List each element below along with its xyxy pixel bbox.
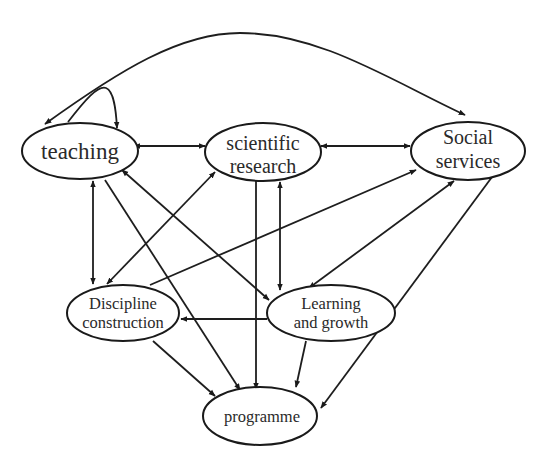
node-label-line1: Learning	[301, 294, 361, 313]
node-scientific-research: scientific research	[205, 123, 321, 181]
node-discipline-construction: Discipline construction	[67, 285, 179, 341]
edge-learning-social	[309, 181, 454, 288]
node-label: programme	[224, 407, 300, 426]
node-label-line2: research	[230, 155, 297, 177]
edges	[45, 33, 492, 408]
edge-teaching-social-services-arc	[45, 33, 465, 124]
edge-learning-programme	[296, 341, 306, 387]
node-label-line2: and growth	[294, 313, 369, 332]
node-programme: programme	[203, 387, 317, 445]
node-learning-and-growth: Learning and growth	[267, 285, 395, 341]
edge-teaching-learning	[122, 170, 269, 300]
node-label-line1: scientific	[226, 132, 299, 154]
edge-discipline-programme	[153, 341, 215, 396]
node-label-line1: Social	[443, 126, 493, 148]
relationship-diagram: teaching scientific research Social serv…	[0, 0, 545, 465]
node-teaching: teaching	[22, 123, 138, 179]
node-social-services: Social services	[411, 122, 525, 180]
node-label: teaching	[41, 139, 119, 164]
node-label-line2: services	[436, 150, 501, 172]
edge-teaching-self-loop	[68, 88, 117, 128]
edge-discipline-social	[150, 170, 416, 285]
node-label-line2: construction	[82, 313, 164, 332]
node-label-line1: Discipline	[89, 294, 157, 313]
